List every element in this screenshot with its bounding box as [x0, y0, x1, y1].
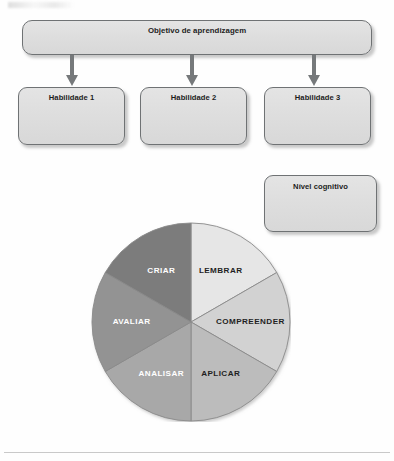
- habilidade-1-box: Habilidade 1: [18, 87, 125, 145]
- pie-slice-label-criar: CRIAR: [147, 266, 175, 275]
- diagram-page: Objetivo de aprendizagem Habilidade 1 Ha…: [0, 0, 394, 461]
- habilidade-2-label: Habilidade 2: [141, 93, 246, 103]
- page-bottom-divider: [4, 452, 390, 453]
- arrow-down-icon-1: [65, 55, 78, 87]
- arrow-head: [186, 75, 198, 86]
- pie-slice-label-lembrar: LEMBRAR: [199, 266, 243, 275]
- arrow-stem: [70, 55, 74, 77]
- arrow-down-icon-3: [307, 55, 320, 87]
- pie-slice-label-avaliar: AVALIAR: [113, 317, 151, 326]
- arrow-down-icon-2: [185, 55, 198, 87]
- objetivo-de-aprendizagem-box: Objetivo de aprendizagem: [22, 20, 372, 55]
- bloom-taxonomy-pie-chart: LEMBRARCOMPREENDERAPLICARANALISARAVALIAR…: [91, 222, 291, 422]
- pie-slice-label-analisar: ANALISAR: [139, 369, 184, 378]
- arrow-stem: [312, 55, 316, 77]
- arrow-head: [66, 75, 78, 86]
- objetivo-de-aprendizagem-label: Objetivo de aprendizagem: [23, 26, 371, 36]
- habilidade-3-label: Habilidade 3: [265, 93, 370, 103]
- pie-slice-label-aplicar: APLICAR: [201, 369, 240, 378]
- arrow-head: [308, 75, 320, 86]
- pie-slice-label-compreender: COMPREENDER: [216, 317, 285, 326]
- pie-chart-svg: LEMBRARCOMPREENDERAPLICARANALISARAVALIAR…: [91, 222, 291, 422]
- habilidade-3-box: Habilidade 3: [264, 87, 371, 145]
- habilidade-1-label: Habilidade 1: [19, 93, 124, 103]
- arrow-stem: [190, 55, 194, 77]
- scan-artifact: [8, 2, 74, 8]
- habilidade-2-box: Habilidade 2: [140, 87, 247, 145]
- nivel-cognitivo-label: Nível cognitivo: [265, 182, 376, 192]
